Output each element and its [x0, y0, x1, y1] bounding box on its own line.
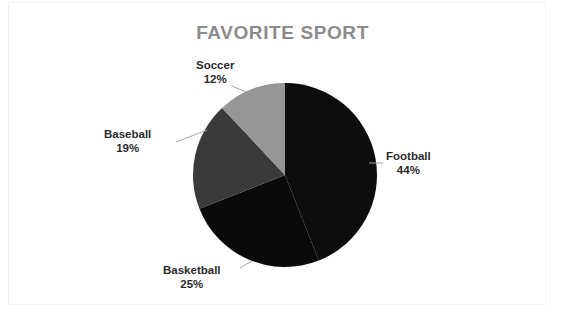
- pie-label-football-name: Football: [386, 150, 431, 162]
- leader-line-basketball: [240, 261, 252, 268]
- leader-line-soccer: [232, 86, 246, 92]
- pie-label-basketball-percent: 25%: [163, 277, 221, 291]
- pie-label-baseball-percent: 19%: [104, 141, 151, 155]
- pie-label-basketball: Basketball 25%: [163, 263, 221, 291]
- pie-label-baseball-name: Baseball: [104, 128, 151, 140]
- pie-label-soccer: Soccer 12%: [196, 58, 234, 86]
- pie-label-football-percent: 44%: [386, 163, 431, 177]
- pie-chart-graphic: [0, 0, 565, 321]
- pie-label-soccer-name: Soccer: [196, 59, 234, 71]
- chart-container: FAVORITE SPORT Football 44% Basketball 2…: [0, 0, 565, 321]
- pie-label-basketball-name: Basketball: [163, 264, 221, 276]
- pie-label-soccer-percent: 12%: [196, 72, 234, 86]
- pie-label-baseball: Baseball 19%: [104, 127, 151, 155]
- pie-label-football: Football 44%: [386, 149, 431, 177]
